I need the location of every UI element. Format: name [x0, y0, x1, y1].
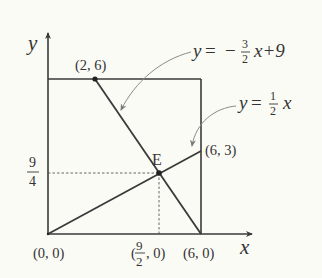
- svg-text:y: y: [237, 92, 248, 113]
- label-x-of-E: ( 9 2 , 0): [131, 238, 166, 269]
- svg-text:2: 2: [242, 52, 248, 66]
- point-E: [156, 170, 162, 176]
- svg-text:−: −: [225, 40, 236, 61]
- label-point-6-3: (6, 3): [205, 142, 237, 159]
- point-2-6: [92, 76, 97, 81]
- line-y-half-x: [48, 151, 201, 234]
- svg-text:2: 2: [270, 104, 276, 118]
- svg-text:2: 2: [136, 254, 143, 269]
- leader-line-2: [192, 106, 236, 146]
- equation-line2: y = 1 2 x: [237, 89, 292, 118]
- svg-text:4: 4: [29, 174, 36, 189]
- leader-line-1: [121, 52, 191, 110]
- y-axis-label: y: [26, 31, 38, 55]
- label-y-of-E: 9 4: [27, 155, 39, 189]
- svg-text:x: x: [282, 92, 292, 113]
- line-y-neg3half-x-plus9: [95, 79, 201, 234]
- label-point-2-6: (2, 6): [75, 57, 107, 74]
- svg-text:y: y: [191, 40, 202, 61]
- svg-text:=: =: [251, 92, 262, 113]
- x-axis-label: x: [239, 235, 250, 259]
- svg-text:, 0): , 0): [146, 245, 166, 262]
- coordinate-diagram: y x (2, 6) (6, 3) (0, 0) (6, 0) E ( 9 2 …: [0, 0, 322, 278]
- equation-line1: y = − 3 2 x+9: [191, 37, 285, 66]
- label-point-E: E: [152, 151, 162, 168]
- svg-text:=: =: [205, 40, 216, 61]
- svg-text:9: 9: [29, 155, 36, 170]
- svg-text:x+9: x+9: [253, 40, 285, 61]
- label-origin: (0, 0): [33, 245, 65, 262]
- svg-text:1: 1: [270, 89, 276, 103]
- svg-text:3: 3: [242, 37, 248, 51]
- point-origin: [47, 233, 49, 235]
- label-point-6-0: (6, 0): [183, 245, 215, 262]
- svg-text:9: 9: [136, 238, 143, 253]
